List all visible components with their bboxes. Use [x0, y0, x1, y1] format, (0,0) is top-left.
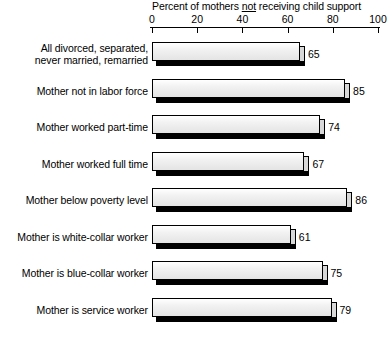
bar-row: Mother is service worker79	[0, 292, 386, 328]
bar-shadow	[156, 244, 296, 249]
x-tick-label: 80	[327, 14, 339, 25]
bar-row: Mother worked full time67	[0, 146, 386, 182]
bar-cap	[323, 265, 328, 280]
category-label: All divorced, separated, never married, …	[2, 42, 152, 66]
category-label: Mother below poverty level	[2, 194, 152, 206]
x-axis-line	[150, 27, 380, 28]
bar-shadow	[156, 207, 352, 212]
x-tick-mark	[197, 28, 198, 33]
x-tick-mark	[333, 28, 334, 33]
bar	[152, 79, 350, 103]
x-tick-label: 100	[369, 14, 387, 25]
bar-value-label: 86	[355, 195, 367, 206]
x-tick-mark	[242, 28, 243, 33]
bar-row: All divorced, separated, never married, …	[0, 36, 386, 72]
bar-cap	[347, 192, 352, 207]
category-label: Mother worked full time	[2, 158, 152, 170]
bar-value-label: 65	[308, 49, 320, 60]
bar-cap	[291, 229, 296, 244]
bar-cap	[332, 302, 337, 317]
bar-cap	[304, 156, 309, 171]
category-label: Mother is blue-collar worker	[2, 267, 152, 279]
bar-row: Mother worked part-time74	[0, 109, 386, 145]
bar-row: Mother below poverty level86	[0, 182, 386, 218]
bar	[152, 42, 305, 66]
x-tick-label: 0	[149, 14, 155, 25]
bar-face	[152, 79, 345, 98]
category-label: Mother worked part-time	[2, 121, 152, 133]
x-tick-mark	[378, 28, 379, 33]
bar-row: Mother not in labor force85	[0, 73, 386, 109]
bar	[152, 225, 296, 249]
bar-value-label: 61	[299, 231, 311, 242]
plot-area: All divorced, separated, never married, …	[0, 36, 386, 340]
bar-shadow	[156, 98, 350, 103]
bar-value-label: 85	[353, 85, 365, 96]
category-label: Mother is service worker	[2, 304, 152, 316]
category-label: Mother not in labor force	[2, 85, 152, 97]
x-tick-label: 60	[282, 14, 294, 25]
bar-face	[152, 42, 300, 61]
bar-value-label: 74	[328, 122, 340, 133]
bar-value-label: 79	[340, 304, 352, 315]
chart-title-suffix: receiving child support	[256, 0, 361, 12]
bar-shadow	[156, 171, 309, 176]
bar	[152, 152, 309, 176]
bar-shadow	[156, 61, 305, 66]
bar	[152, 115, 325, 139]
bar-face	[152, 188, 347, 207]
x-tick-label: 40	[237, 14, 249, 25]
x-tick-mark	[288, 28, 289, 33]
x-tick-mark	[152, 28, 153, 33]
bar-value-label: 75	[331, 268, 343, 279]
bar-face	[152, 298, 332, 317]
x-tick-label: 20	[191, 14, 203, 25]
bar-shadow	[156, 134, 325, 139]
category-label: Mother is white-collar worker	[2, 231, 152, 243]
bar-shadow	[156, 317, 337, 322]
bar	[152, 261, 328, 285]
bar	[152, 298, 337, 322]
chart-title-emphasis: not	[242, 0, 256, 12]
x-axis: 020406080100	[152, 14, 378, 36]
bar-face	[152, 152, 304, 171]
bar-shadow	[156, 280, 328, 285]
bar-cap	[320, 119, 325, 134]
bar-row: Mother is blue-collar worker75	[0, 255, 386, 291]
bar-cap	[300, 46, 305, 61]
bar-face	[152, 115, 320, 134]
bar-face	[152, 225, 291, 244]
bar-cap	[345, 83, 350, 98]
bar-face	[152, 261, 323, 280]
bar-value-label: 67	[312, 158, 324, 169]
bar-row: Mother is white-collar worker61	[0, 219, 386, 255]
bar	[152, 188, 352, 212]
chart-title-prefix: Percent of mothers	[152, 0, 242, 12]
chart-title: Percent of mothers not receiving child s…	[152, 0, 361, 12]
